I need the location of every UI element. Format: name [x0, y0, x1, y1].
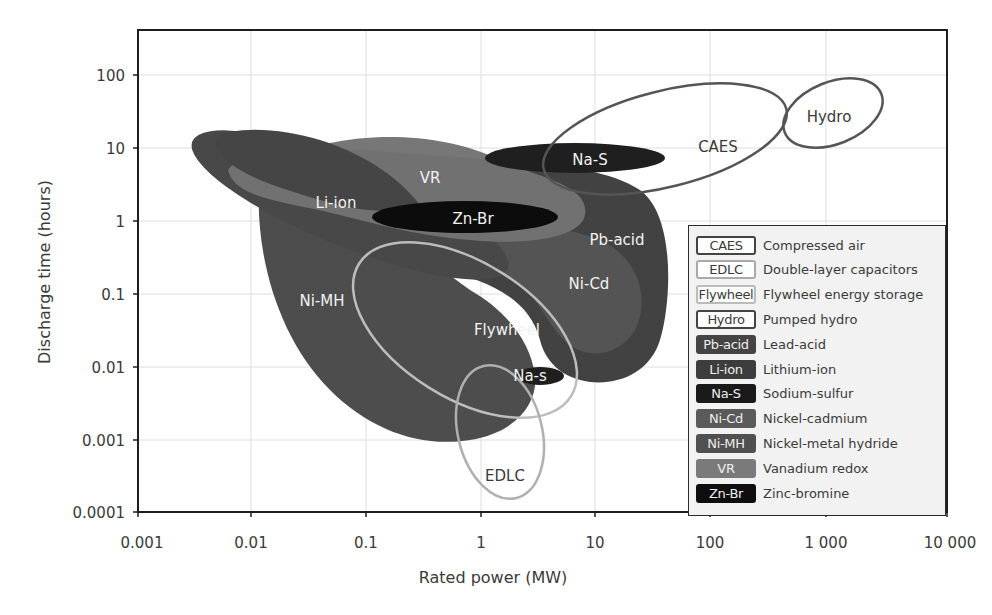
legend-label: Lead-acid: [763, 337, 826, 352]
legend-label: Pumped hydro: [763, 312, 857, 327]
legend-item: Na-SSodium-sulfur: [696, 383, 853, 405]
label-na-s-small: Na-s: [513, 367, 547, 385]
legend-swatch: Ni-MH: [696, 434, 756, 453]
legend-swatch: CAES: [696, 236, 756, 255]
x-tick: 10: [585, 534, 604, 552]
x-tick: 100: [696, 534, 725, 552]
legend-label: Lithium-ion: [763, 362, 836, 377]
y-tick: 0.001: [82, 432, 125, 450]
label-hydro: Hydro: [807, 108, 852, 126]
legend-label: Double-layer capacitors: [763, 262, 918, 277]
legend-swatch: EDLC: [696, 260, 756, 279]
x-tick: 0.01: [234, 534, 267, 552]
legend-swatch: Li-ion: [696, 360, 756, 379]
y-tick: 10: [106, 140, 125, 158]
y-tick: 1: [115, 213, 125, 231]
x-tick: 1 000: [805, 534, 848, 552]
y-tick: 0.01: [92, 359, 125, 377]
label-li-ion: Li-ion: [316, 194, 357, 212]
x-tick: 10 000: [924, 534, 977, 552]
y-tick: 0.0001: [73, 504, 126, 522]
label-flywheel: Flywheel: [474, 321, 540, 339]
legend-label: Nickel-metal hydride: [763, 436, 898, 451]
legend-item: FlywheelFlywheel energy storage: [696, 284, 923, 306]
legend-item: Ni-MHNickel-metal hydride: [696, 432, 898, 454]
legend-swatch: VR: [696, 459, 756, 478]
y-axis-title: Discharge time (hours): [35, 180, 54, 364]
legend-swatch: Na-S: [696, 384, 756, 403]
legend-label: Nickel-cadmium: [763, 411, 867, 426]
label-zn-br: Zn-Br: [452, 210, 494, 228]
x-tick: 0.1: [354, 534, 378, 552]
label-pb-acid: Pb-acid: [589, 231, 644, 249]
legend-label: Vanadium redox: [763, 461, 869, 476]
legend-label: Zinc-bromine: [763, 486, 849, 501]
legend-item: Zn-BrZinc-bromine: [696, 482, 849, 504]
legend-item: HydroPumped hydro: [696, 308, 857, 330]
legend-item: CAESCompressed air: [696, 234, 865, 256]
label-edlc: EDLC: [485, 467, 525, 485]
x-axis-title: Rated power (MW): [419, 568, 568, 587]
legend-label: Flywheel energy storage: [763, 287, 923, 302]
legend-item: Ni-CdNickel-cadmium: [696, 408, 867, 430]
legend-swatch: Pb-acid: [696, 335, 756, 354]
legend-label: Sodium-sulfur: [763, 386, 853, 401]
legend-label: Compressed air: [763, 238, 865, 253]
legend-item: EDLCDouble-layer capacitors: [696, 259, 918, 281]
legend-swatch: Ni-Cd: [696, 409, 756, 428]
legend-item: Pb-acidLead-acid: [696, 333, 826, 355]
x-tick: 1: [476, 534, 486, 552]
y-tick: 100: [96, 67, 125, 85]
x-tick-labels: 0.001 0.01 0.1 1 10 100 1 000 10 000: [121, 534, 977, 552]
label-caes: CAES: [698, 138, 738, 156]
y-tick: 0.1: [101, 286, 125, 304]
x-tick: 0.001: [121, 534, 164, 552]
label-ni-cd: Ni-Cd: [569, 275, 610, 293]
legend-swatch: Flywheel: [696, 285, 756, 304]
label-na-s: Na-S: [572, 151, 607, 169]
y-tick-labels: 100 10 1 0.1 0.01 0.001 0.0001: [73, 67, 126, 522]
legend-swatch: Zn-Br: [696, 484, 756, 503]
legend: CAESCompressed airEDLCDouble-layer capac…: [688, 225, 946, 516]
legend-item: VRVanadium redox: [696, 457, 869, 479]
label-vr: VR: [420, 169, 441, 187]
label-ni-mh: Ni-MH: [299, 292, 344, 310]
legend-swatch: Hydro: [696, 310, 756, 329]
legend-item: Li-ionLithium-ion: [696, 358, 836, 380]
